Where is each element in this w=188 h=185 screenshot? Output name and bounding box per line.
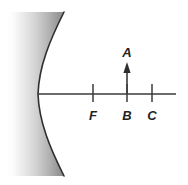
label-b: B bbox=[122, 108, 131, 123]
label-c: C bbox=[147, 108, 157, 123]
optics-diagram-figure: A F B C bbox=[0, 0, 188, 185]
label-f: F bbox=[89, 108, 98, 123]
optics-diagram-canvas: A F B C bbox=[0, 0, 188, 185]
label-a: A bbox=[121, 45, 131, 60]
object-arrow-a bbox=[123, 62, 130, 94]
object-arrow-head bbox=[123, 62, 130, 73]
